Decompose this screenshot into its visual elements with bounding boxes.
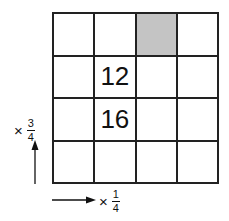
grid-cell-shaded: [136, 13, 177, 56]
grid-cell-12: 12: [94, 56, 135, 99]
times-symbol: ×: [14, 122, 23, 139]
grid-cell-r0c1: [94, 13, 135, 56]
grid-cell-r3c3: [177, 141, 218, 184]
grid-cell-r2c3: [177, 98, 218, 141]
grid-cell-r1c3: [177, 56, 218, 99]
grid-cell-r0c3: [177, 13, 218, 56]
times-symbol: ×: [99, 193, 108, 210]
fraction-one-quarter: 1 4: [112, 189, 120, 214]
grid-cell-r3c1: [94, 141, 135, 184]
grid-cell-r2c0: [53, 98, 94, 141]
grid-cell-r3c0: [53, 141, 94, 184]
grid-cell-r0c0: [53, 13, 94, 56]
up-arrow-icon: [30, 140, 40, 186]
grid-cell-r1c0: [53, 56, 94, 99]
horizontal-multiplier-label: × 1 4: [99, 189, 120, 214]
grid-cell-r3c2: [136, 141, 177, 184]
right-arrow-icon: [52, 195, 96, 205]
grid-cell-r1c2: [136, 56, 177, 99]
grid-cell-r2c2: [136, 98, 177, 141]
grid-cell-16: 16: [94, 98, 135, 141]
number-grid: 12 16: [52, 12, 219, 184]
